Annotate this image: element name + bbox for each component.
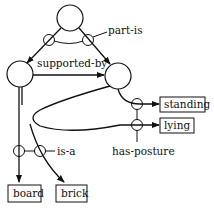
edge-right-to-left-curve bbox=[33, 86, 120, 130]
box-lying-label: lying bbox=[164, 119, 190, 131]
node-top bbox=[57, 5, 83, 31]
node-right bbox=[105, 63, 131, 89]
box-brick-label: brick bbox=[61, 187, 89, 199]
node-left bbox=[7, 61, 33, 87]
box-board-label: board bbox=[13, 187, 44, 199]
edge-left-to-brick bbox=[22, 87, 64, 182]
part-is-link bbox=[54, 41, 83, 44]
box-standing-label: standing bbox=[164, 98, 210, 110]
label-is-a: is-a bbox=[57, 145, 76, 157]
part-is-label-line bbox=[93, 32, 107, 37]
label-part-is: part-is bbox=[108, 24, 143, 36]
edge-right-to-standing bbox=[118, 89, 159, 104]
label-has-posture: has-posture bbox=[112, 145, 175, 157]
part-is-junction-right bbox=[83, 35, 94, 46]
label-supported-by: supported-by bbox=[37, 57, 107, 69]
semantic-network-diagram: part-is supported-by has-posture standin… bbox=[0, 0, 214, 213]
